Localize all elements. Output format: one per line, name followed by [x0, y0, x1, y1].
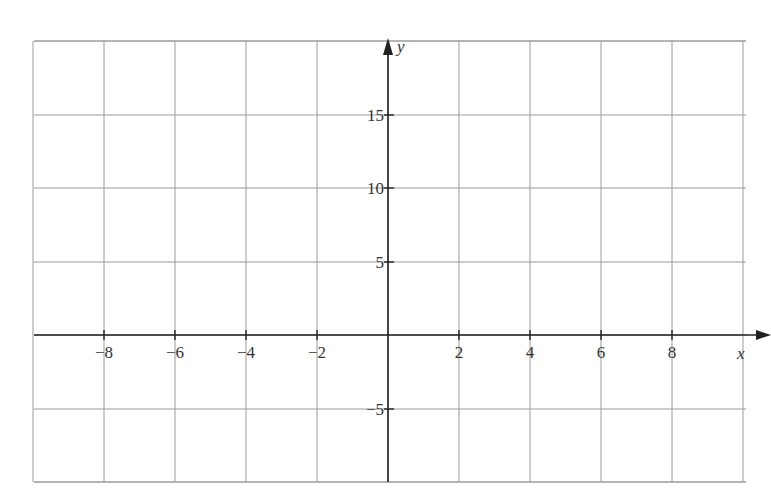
y-tick-label: 10 [367, 179, 384, 198]
x-axis-label: x [736, 344, 745, 363]
x-tick-label: −2 [308, 343, 326, 362]
x-tick-label: −4 [237, 343, 256, 362]
x-axis-arrow-icon [756, 330, 771, 340]
y-tick-label: −5 [366, 400, 384, 419]
axes [34, 38, 771, 482]
x-tick-label: −6 [166, 343, 184, 362]
x-tick-label: 6 [597, 343, 606, 362]
coordinate-grid-chart: −8−6−4−2246815105−5 x y [0, 0, 771, 504]
x-tick-label: 2 [455, 343, 464, 362]
x-tick-label: −8 [95, 343, 113, 362]
y-tick-label: 15 [367, 106, 384, 125]
x-tick-label: 8 [668, 343, 677, 362]
y-tick-label: 5 [376, 253, 385, 272]
x-tick-label: 4 [526, 343, 535, 362]
y-axis-label: y [395, 37, 405, 56]
